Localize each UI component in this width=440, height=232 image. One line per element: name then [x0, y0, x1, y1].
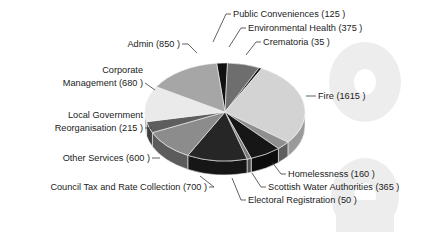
- leader-line-scottish-water-authorities: [252, 173, 266, 187]
- label-line: Reorganisation (215 ): [55, 123, 143, 133]
- pie-slice-side: [247, 158, 251, 173]
- label-line: Other Services (600 ): [63, 153, 150, 163]
- leader-line-public-conveniences: [213, 14, 231, 42]
- leader-line-corporate-management: [145, 83, 155, 90]
- pie-slices: Public Conveniences (125 )Environmental …: [145, 63, 305, 161]
- label-line: Homelessness (160 ): [288, 169, 375, 179]
- label-homelessness: Homelessness (160 ): [288, 169, 375, 179]
- label-line: Fire (1615 ): [318, 91, 366, 101]
- label-admin: Admin (850 ): [127, 39, 180, 49]
- label-electoral-registration: Electoral Registration (50 ): [248, 195, 357, 205]
- label-other-services: Other Services (600 ): [63, 153, 150, 163]
- leader-line-crematoria: [246, 42, 261, 55]
- label-scottish-water-authorities: Scottish Water Authorities (365 ): [268, 182, 399, 192]
- label-line: Local Government: [68, 110, 144, 120]
- label-line: Electoral Registration (50 ): [248, 195, 357, 205]
- label-environmental-health: Environmental Health (375 ): [248, 23, 362, 33]
- label-line: Public Conveniences (125 ): [233, 9, 345, 19]
- label-crematoria: Crematoria (35 ): [263, 37, 330, 47]
- leader-line-environmental-health: [229, 28, 246, 47]
- leader-line-electoral-registration: [232, 178, 246, 200]
- pie-chart-figure: Public Conveniences (125 )Environmental …: [0, 0, 440, 232]
- label-fire: Fire (1615 ): [318, 91, 366, 101]
- watermark-shape: [329, 42, 401, 122]
- label-line: Environmental Health (375 ): [248, 23, 362, 33]
- label-line: Management (680 ): [63, 78, 143, 88]
- label-line: Corporate: [102, 65, 143, 75]
- label-line: Scottish Water Authorities (365 ): [268, 182, 399, 192]
- label-public-conveniences: Public Conveniences (125 ): [233, 9, 345, 19]
- leader-line-admin: [182, 44, 197, 53]
- label-line: Admin (850 ): [127, 39, 180, 49]
- label-council-tax: Council Tax and Rate Collection (700 ): [50, 182, 207, 192]
- label-line: Crematoria (35 ): [263, 37, 330, 47]
- label-local-government: Local GovernmentReorganisation (215 ): [55, 110, 144, 133]
- label-line: Council Tax and Rate Collection (700 ): [50, 182, 207, 192]
- label-corporate-management: CorporateManagement (680 ): [63, 65, 143, 88]
- chart-canvas: Public Conveniences (125 )Environmental …: [0, 0, 440, 232]
